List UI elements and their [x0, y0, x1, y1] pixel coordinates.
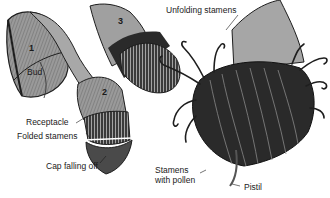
label-cap-falling-off: Cap falling off	[46, 162, 98, 171]
open-flower	[160, 0, 327, 186]
label-receptacle: Receptacle	[26, 118, 69, 127]
bud-body	[7, 12, 69, 97]
label-stamens-with-pollen: Stamens with pollen	[155, 166, 195, 186]
label-folded-stamens: Folded stamens	[17, 132, 77, 141]
bud-stage-1	[7, 12, 69, 98]
label-bud: Bud	[27, 68, 42, 77]
stage-number-2: 2	[102, 88, 107, 97]
stage-number-3: 3	[118, 17, 123, 26]
label-pistil: Pistil	[244, 183, 262, 192]
stage-number-1: 1	[29, 44, 34, 53]
stamen-mass	[193, 62, 315, 166]
label-unfolding-stamens: Unfolding stamens	[166, 6, 236, 15]
